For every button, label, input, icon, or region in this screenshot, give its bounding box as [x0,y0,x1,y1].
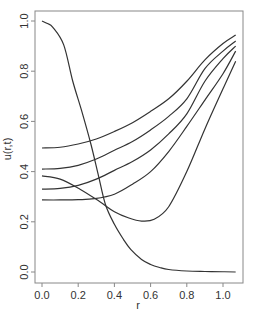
line-chart: 0.00.20.40.60.81.0 0.00.20.40.60.81.0 r … [0,0,254,314]
x-tick-label: 1.0 [215,289,230,301]
y-tick-label: 0.8 [18,64,30,79]
series-line-curve-6 [42,35,236,148]
x-tick-label: 0.6 [143,289,158,301]
x-tick-label: 0.8 [179,289,194,301]
series-line-curve-2 [42,61,236,221]
y-tick-label: 0.0 [18,264,30,279]
x-tick-label: 0.2 [71,289,86,301]
y-tick-label: 1.0 [18,13,30,28]
x-axis: 0.00.20.40.60.81.0 [34,283,230,301]
series-line-curve-5 [42,41,236,169]
series-group [42,21,236,272]
y-tick-label: 0.6 [18,114,30,129]
y-axis: 0.00.20.40.60.81.0 [18,13,35,279]
x-tick-label: 0.4 [107,289,122,301]
x-tick-label: 0.0 [34,289,49,301]
x-axis-label: r [136,299,140,311]
y-tick-label: 0.2 [18,214,30,229]
y-tick-label: 0.4 [18,164,30,179]
y-axis-label: u(r,t) [1,138,13,161]
series-line-curve-4 [42,46,236,189]
